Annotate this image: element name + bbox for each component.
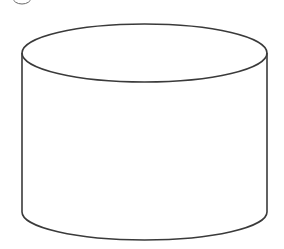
circled-label-marker <box>13 0 31 4</box>
cylinder-top-ellipse <box>22 24 267 82</box>
cylinder-bottom-arc <box>22 212 267 240</box>
cylinder-diagram <box>0 0 284 249</box>
cylinder-shape <box>22 24 267 240</box>
